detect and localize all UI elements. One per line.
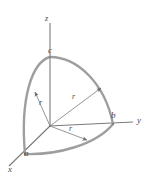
geometry-figure: z y x c b a r r r bbox=[0, 0, 147, 180]
axis-label-z: z bbox=[45, 15, 48, 23]
axis-label-y: y bbox=[137, 116, 141, 125]
radius-line-upper bbox=[50, 88, 101, 126]
x-axis-line bbox=[9, 126, 50, 166]
point-label-b: b bbox=[111, 111, 116, 120]
axis-label-x: x bbox=[8, 165, 12, 174]
point-label-c: c bbox=[48, 46, 52, 55]
arc-c-to-b bbox=[50, 57, 113, 124]
point-markers bbox=[24, 56, 114, 155]
radius-label-upper: r bbox=[72, 93, 75, 101]
radius-label-lower: r bbox=[69, 125, 72, 133]
point-marker-origin bbox=[49, 125, 51, 127]
radius-label-left: r bbox=[39, 99, 42, 107]
diagram-canvas bbox=[0, 0, 147, 180]
y-axis-line bbox=[49, 122, 133, 126]
point-marker-b bbox=[112, 123, 114, 125]
radius-line-left bbox=[35, 92, 50, 126]
point-label-a: a bbox=[24, 149, 29, 158]
octant-arcs bbox=[24, 57, 113, 154]
radius-segments bbox=[35, 88, 101, 140]
point-marker-c bbox=[49, 56, 51, 58]
